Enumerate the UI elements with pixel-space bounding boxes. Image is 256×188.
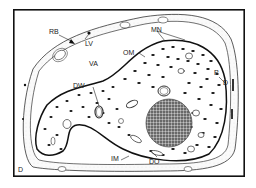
wall-vesicle [184,167,192,172]
label-p: P [214,69,219,76]
wall-particle [231,109,233,119]
vesicle [178,69,184,74]
label-va: VA [89,60,98,67]
diagram-frame: RB LV VA DW OM MN P D IM DO D [13,9,245,177]
label-rb: RB [49,28,59,35]
label-om: OM [123,49,134,56]
label-d-corner: D [18,166,23,173]
wall-vesicle [58,167,66,172]
dw-vacuole [95,106,103,118]
vesicle [198,133,204,138]
vesicle [63,120,71,129]
label-dw: DW [73,82,85,89]
label-d-right: D [223,79,228,86]
label-lv: LV [85,40,93,47]
wall-granule [24,84,26,86]
nucleus [146,99,192,147]
vesicle [188,146,195,152]
vesicle [119,119,124,124]
label-mn: MN [151,26,162,33]
wall-vesicle [158,17,168,23]
vesicle [193,110,200,116]
vesicle [51,137,55,145]
label-do: DO [149,158,160,165]
wall-granule [22,118,24,120]
vesicle [186,53,193,59]
wall-vesicle [120,22,130,28]
label-im: IM [111,155,119,162]
wall-particle [232,79,234,91]
cell-diagram: RB LV VA DW OM MN P D IM DO D [13,9,245,177]
